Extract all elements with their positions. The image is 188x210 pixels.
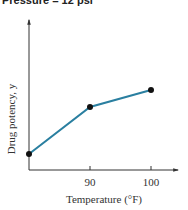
y-axis-label: Drug potency, y (5, 83, 17, 154)
data-point (148, 87, 154, 93)
x-tick-label-100: 100 (143, 176, 160, 188)
x-tick-label-90: 90 (85, 176, 97, 188)
data-point (26, 151, 32, 157)
x-axis-label: Temperature (°F) (66, 193, 142, 206)
data-point (87, 104, 93, 110)
chart-plot: 90 100 Temperature (°F) Drug potency, y (0, 0, 188, 210)
data-line (29, 90, 151, 154)
